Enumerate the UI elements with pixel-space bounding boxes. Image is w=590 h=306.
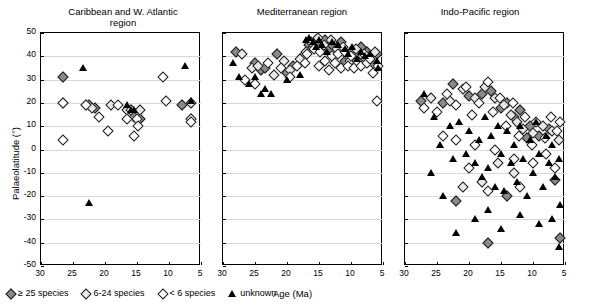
data-point: [187, 97, 195, 104]
y-tick-label: 50: [12, 26, 36, 36]
panel-title-indopacific: Indo-Pacific region: [400, 6, 560, 17]
data-point: [542, 132, 550, 139]
data-point: [452, 229, 460, 236]
x-tickmark: [383, 262, 384, 265]
gridline: [223, 126, 383, 127]
plot-area-mediterranean: [222, 32, 382, 265]
data-point: [548, 141, 556, 148]
data-point: [130, 106, 138, 113]
legend-label: 6-24 species: [93, 288, 144, 298]
gridline: [223, 196, 383, 197]
data-point: [157, 72, 168, 83]
x-tick-label: 5: [556, 268, 572, 278]
data-point: [503, 127, 511, 134]
gridline: [41, 33, 201, 34]
y-tickmark: [223, 150, 226, 151]
gridline: [41, 219, 201, 220]
gridline: [41, 150, 201, 151]
x-tick-label: 25: [64, 268, 80, 278]
data-point: [508, 167, 519, 178]
data-point: [554, 232, 565, 243]
data-point: [527, 158, 538, 169]
data-point: [484, 206, 492, 213]
gridline: [41, 56, 201, 57]
y-tick-label: -40: [12, 236, 36, 246]
figure-root: Caribbean and W. Atlantic region Mediter…: [0, 0, 590, 306]
data-point: [556, 201, 564, 208]
data-point: [251, 73, 259, 80]
panel-title-caribbean: Caribbean and W. Atlantic region: [38, 6, 208, 28]
data-point: [160, 95, 171, 106]
data-point: [296, 71, 304, 78]
data-point: [475, 136, 483, 143]
y-tickmark: [41, 266, 44, 267]
y-tickmark: [41, 103, 44, 104]
x-tickmark: [565, 262, 566, 265]
y-tick-label: -20: [12, 189, 36, 199]
data-point: [430, 113, 438, 120]
data-point: [235, 73, 243, 80]
data-point: [318, 41, 326, 48]
legend-item-6-24: 6-24 species: [81, 288, 144, 298]
gridline: [405, 56, 565, 57]
y-tickmark: [405, 196, 408, 197]
gridline: [41, 126, 201, 127]
data-point: [420, 90, 428, 97]
data-point: [366, 50, 374, 57]
data-point: [371, 95, 382, 106]
x-tick-label: 30: [32, 268, 48, 278]
y-tickmark: [41, 80, 44, 81]
x-tickmark: [137, 262, 138, 265]
x-tickmark: [437, 262, 438, 265]
y-tickmark: [223, 126, 226, 127]
legend-label: < 6 species: [170, 288, 216, 298]
diamond-dark-icon: [6, 289, 15, 298]
gridline: [223, 219, 383, 220]
x-tick-label: 10: [342, 268, 358, 278]
y-tickmark: [405, 243, 408, 244]
data-point: [500, 187, 508, 194]
y-tickmark: [41, 196, 44, 197]
x-tick-label: 15: [310, 268, 326, 278]
x-tick-label: 25: [246, 268, 262, 278]
x-tick-label: 10: [160, 268, 176, 278]
data-point: [457, 181, 468, 192]
data-point: [516, 122, 524, 129]
gridline: [223, 103, 383, 104]
data-point: [548, 215, 556, 222]
y-tickmark: [41, 150, 44, 151]
data-point: [484, 164, 492, 171]
y-tickmark: [405, 80, 408, 81]
gridline: [405, 33, 565, 34]
data-point: [229, 59, 237, 66]
data-point: [532, 118, 540, 125]
data-point: [374, 64, 382, 71]
y-tick-label: 40: [12, 49, 36, 59]
y-tickmark: [223, 80, 226, 81]
y-tickmark: [405, 219, 408, 220]
data-point: [483, 237, 494, 248]
data-point: [436, 141, 444, 148]
data-point: [58, 135, 69, 146]
x-tick-label: 20: [96, 268, 112, 278]
data-point: [373, 57, 381, 64]
y-tick-label: 10: [12, 119, 36, 129]
y-tick-label: -30: [12, 212, 36, 222]
legend-label: unknown: [240, 288, 276, 298]
gridline: [223, 150, 383, 151]
triangle-icon: [228, 289, 237, 298]
x-tickmark: [255, 262, 256, 265]
data-point: [471, 215, 479, 222]
legend-item-unknown: unknown: [228, 288, 276, 298]
data-point: [471, 159, 479, 166]
y-tickmark: [223, 196, 226, 197]
y-tickmark: [405, 103, 408, 104]
x-tick-label: 20: [278, 268, 294, 278]
x-tickmark: [73, 262, 74, 265]
data-point: [526, 136, 534, 143]
y-tickmark: [405, 266, 408, 267]
panel-title-text: Indo-Pacific region: [441, 6, 520, 17]
y-tickmark: [223, 173, 226, 174]
x-tickmark: [169, 262, 170, 265]
panel-title-line2: region: [110, 17, 136, 28]
